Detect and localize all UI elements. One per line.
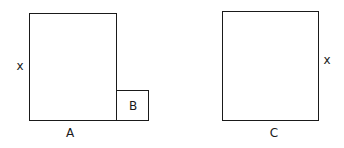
label-c: C: [270, 127, 278, 139]
label-x-right: x: [323, 54, 330, 66]
rectangle-c: [222, 11, 319, 121]
label-b: B: [129, 100, 137, 112]
label-x-left: x: [16, 60, 23, 72]
rectangle-a: [29, 13, 117, 121]
label-a: A: [66, 127, 74, 139]
